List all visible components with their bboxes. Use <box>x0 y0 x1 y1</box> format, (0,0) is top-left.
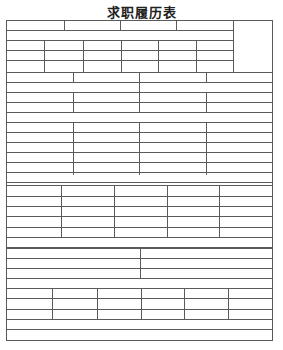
header-block-cell[interactable] <box>159 51 196 60</box>
experience-block-cell[interactable] <box>7 186 61 196</box>
education-block-cell[interactable] <box>74 133 139 142</box>
family-block-cell[interactable] <box>229 310 272 319</box>
family-block-cell[interactable] <box>98 299 141 309</box>
header-block-cell[interactable] <box>121 21 176 30</box>
education-block-cell[interactable] <box>74 163 139 172</box>
family-block-cell[interactable] <box>7 310 52 319</box>
education-block-cell[interactable] <box>7 153 73 162</box>
personal-info-block-cell[interactable] <box>140 73 206 82</box>
experience-block-cell[interactable] <box>7 217 61 227</box>
family-block-cell[interactable] <box>142 310 184 319</box>
education-block-cell[interactable] <box>140 133 206 142</box>
skills-block-cell[interactable] <box>7 279 272 288</box>
education-block-cell[interactable] <box>7 123 73 132</box>
family-block-cell[interactable] <box>98 310 141 319</box>
experience-block-cell[interactable] <box>62 197 114 206</box>
family-block-cell[interactable] <box>185 310 228 319</box>
experience-block-cell[interactable] <box>115 197 167 206</box>
experience-block-cell[interactable] <box>220 207 272 216</box>
education-block-cell[interactable] <box>140 123 206 132</box>
skills-block-cell[interactable] <box>7 249 140 258</box>
skills-block-cell[interactable] <box>7 269 140 278</box>
family-block-cell[interactable] <box>7 320 272 329</box>
family-block-cell[interactable] <box>142 289 184 298</box>
header-block-cell[interactable] <box>197 41 233 50</box>
experience-block-cell[interactable] <box>168 228 219 237</box>
education-block-cell[interactable] <box>140 173 206 175</box>
education-block-cell[interactable] <box>140 143 206 152</box>
education-block-cell[interactable] <box>7 143 73 152</box>
experience-block-cell[interactable] <box>220 228 272 237</box>
education-block-cell[interactable] <box>7 173 73 175</box>
experience-block-cell[interactable] <box>115 186 167 196</box>
experience-block-cell[interactable] <box>7 239 272 247</box>
personal-info-block-cell[interactable] <box>7 113 272 122</box>
header-block-cell[interactable] <box>122 61 158 72</box>
experience-block-cell[interactable] <box>168 197 219 206</box>
header-block-cell[interactable] <box>7 51 44 60</box>
experience-block-cell[interactable] <box>115 228 167 237</box>
personal-info-block-cell[interactable] <box>207 73 272 82</box>
education-block-cell[interactable] <box>207 123 272 132</box>
header-block-cell[interactable] <box>7 21 64 30</box>
experience-block-cell[interactable] <box>115 207 167 216</box>
family-block-cell[interactable] <box>53 299 97 309</box>
family-block-cell[interactable] <box>98 289 141 298</box>
header-block-cell[interactable] <box>65 21 120 30</box>
experience-block-cell[interactable] <box>62 186 114 196</box>
experience-block-cell[interactable] <box>220 197 272 206</box>
personal-info-block-cell[interactable] <box>7 73 73 82</box>
personal-info-block-cell[interactable] <box>7 93 73 102</box>
education-block-cell[interactable] <box>140 163 206 172</box>
personal-info-block-cell[interactable] <box>140 83 272 92</box>
education-block-cell[interactable] <box>207 143 272 152</box>
education-block-cell[interactable] <box>7 163 73 172</box>
family-block-cell[interactable] <box>7 299 52 309</box>
family-block-cell[interactable] <box>53 310 97 319</box>
skills-block-cell[interactable] <box>7 259 140 268</box>
personal-info-block-cell[interactable] <box>207 103 272 112</box>
personal-info-block-cell[interactable] <box>74 93 139 102</box>
family-block-cell[interactable] <box>185 299 228 309</box>
experience-block-cell[interactable] <box>62 217 114 227</box>
header-block-cell[interactable] <box>159 41 196 50</box>
experience-block-cell[interactable] <box>7 207 61 216</box>
education-block-cell[interactable] <box>207 163 272 172</box>
experience-block-cell[interactable] <box>220 186 272 196</box>
header-block-cell[interactable] <box>122 41 158 50</box>
education-block-cell[interactable] <box>7 133 73 142</box>
header-block-cell[interactable] <box>177 21 233 30</box>
header-block-cell[interactable] <box>197 61 233 72</box>
education-block-cell[interactable] <box>74 173 139 175</box>
education-block-cell[interactable] <box>207 153 272 162</box>
experience-block-cell[interactable] <box>7 197 61 206</box>
family-block-cell[interactable] <box>7 289 52 298</box>
header-block-cell[interactable] <box>84 51 121 60</box>
photo-box[interactable] <box>234 21 272 72</box>
personal-info-block-cell[interactable] <box>74 103 139 112</box>
skills-block-cell[interactable] <box>141 269 272 278</box>
experience-block-cell[interactable] <box>115 217 167 227</box>
personal-info-block-cell[interactable] <box>7 103 73 112</box>
experience-block-cell[interactable] <box>62 207 114 216</box>
experience-block-cell[interactable] <box>168 217 219 227</box>
header-block-cell[interactable] <box>45 41 83 50</box>
education-block-cell[interactable] <box>140 153 206 162</box>
header-block-cell[interactable] <box>84 41 121 50</box>
skills-block-cell[interactable] <box>141 259 272 268</box>
education-block-cell[interactable] <box>207 173 272 175</box>
experience-block-cell[interactable] <box>168 186 219 196</box>
experience-block-cell[interactable] <box>62 228 114 237</box>
header-block-cell[interactable] <box>197 51 233 60</box>
personal-info-block-cell[interactable] <box>74 73 139 82</box>
header-block-cell[interactable] <box>7 41 44 50</box>
header-block-cell[interactable] <box>159 61 196 72</box>
header-block-cell[interactable] <box>45 51 83 60</box>
family-block-cell[interactable] <box>229 299 272 309</box>
header-block-cell[interactable] <box>84 61 121 72</box>
personal-info-block-cell[interactable] <box>207 93 272 102</box>
experience-block-cell[interactable] <box>168 207 219 216</box>
personal-info-block-cell[interactable] <box>7 83 139 92</box>
family-block-cell[interactable] <box>7 330 272 340</box>
header-block-cell[interactable] <box>7 31 233 40</box>
